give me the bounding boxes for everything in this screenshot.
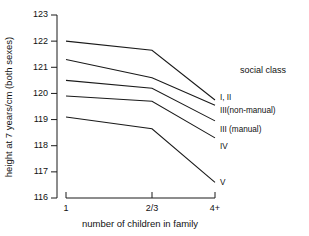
y-tick-labels: 116 117 118 119 120 121 122 123 bbox=[33, 9, 48, 202]
x-tick-label: 2/3 bbox=[146, 203, 159, 213]
legend-label-iii-non-manual: III(non-manual) bbox=[220, 106, 276, 115]
legend-labels: I, II III(non-manual) III (manual) IV V bbox=[220, 93, 276, 187]
y-tick-label: 122 bbox=[33, 36, 48, 46]
legend-label-i-ii: I, II bbox=[220, 93, 231, 102]
series-group bbox=[66, 41, 215, 182]
chart-svg: height at 7 years/cm (both sexes) 116 11… bbox=[0, 0, 309, 236]
y-axis-title: height at 7 years/cm (both sexes) bbox=[3, 37, 14, 177]
series-line-0 bbox=[66, 41, 215, 100]
x-ticks bbox=[66, 192, 215, 198]
series-line-4 bbox=[66, 117, 215, 182]
y-tick-label: 118 bbox=[34, 140, 48, 150]
legend-label-iv: IV bbox=[220, 142, 228, 151]
y-ticks bbox=[51, 15, 57, 198]
x-tick-labels: 1 2/3 4+ bbox=[63, 203, 220, 213]
legend-label-v: V bbox=[220, 178, 226, 187]
legend-label-iii-manual: III (manual) bbox=[220, 125, 262, 134]
x-tick-label: 1 bbox=[63, 203, 68, 213]
y-tick-label: 117 bbox=[34, 166, 48, 176]
line-chart: height at 7 years/cm (both sexes) 116 11… bbox=[0, 0, 309, 236]
x-axis-title: number of children in family bbox=[82, 218, 198, 229]
x-tick-label: 4+ bbox=[210, 203, 220, 213]
series-line-3 bbox=[66, 96, 215, 138]
y-tick-label: 116 bbox=[34, 192, 48, 202]
legend-title: social class bbox=[240, 65, 287, 75]
y-tick-label: 123 bbox=[33, 9, 48, 19]
y-tick-label: 119 bbox=[34, 114, 48, 124]
y-tick-label: 121 bbox=[33, 62, 48, 72]
y-tick-label: 120 bbox=[33, 88, 48, 98]
